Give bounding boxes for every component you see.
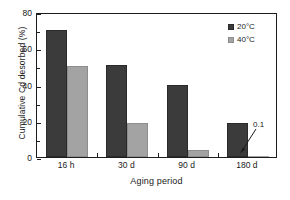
bar-90d-20C [167, 85, 188, 158]
bar-16h-20C [46, 30, 67, 157]
y-tick-mark [37, 87, 41, 88]
x-tick-label: 180 d [222, 160, 272, 170]
legend-item-40C: 40°C [228, 34, 274, 45]
bar-180d-40C [248, 156, 269, 157]
x-tick-label: 30 d [101, 160, 151, 170]
legend-item-20C: 20°C [228, 21, 274, 32]
y-tick-label: 80 [14, 9, 32, 18]
legend-label: 40°C [237, 36, 255, 44]
legend-swatch-icon [228, 37, 234, 43]
x-axis-tick-labels: 16 h30 d90 d180 d [36, 160, 277, 174]
y-tick-mark [37, 14, 41, 15]
chart-figure: Cumulative Cd desorbed (%) 806040200 16 … [0, 0, 290, 200]
y-tick-mark-minor [37, 68, 40, 69]
y-tick-label: 60 [14, 45, 32, 54]
bar-30d-20C [106, 65, 127, 157]
legend-swatch-icon [228, 24, 234, 30]
x-tick-mark [158, 153, 159, 157]
x-tick-mark [97, 153, 98, 157]
x-tick-mark [218, 153, 219, 157]
y-tick-mark-minor [37, 105, 40, 106]
bar-16h-40C [67, 66, 88, 157]
y-tick-mark [37, 123, 41, 124]
y-tick-mark-minor [37, 141, 40, 142]
x-axis-title: Aging period [36, 176, 277, 186]
bar-30d-40C [127, 123, 148, 157]
legend-label: 20°C [237, 23, 255, 31]
x-tick-label: 90 d [162, 160, 212, 170]
y-tick-label: 40 [14, 82, 32, 91]
chart-legend: 20°C40°C [228, 21, 274, 47]
y-tick-mark [37, 50, 41, 51]
y-tick-label: 0 [14, 154, 32, 163]
x-tick-label: 16 h [41, 160, 91, 170]
y-axis-tick-labels: 806040200 [14, 0, 32, 200]
y-tick-label: 20 [14, 118, 32, 127]
bar-90d-40C [188, 150, 209, 157]
y-tick-mark-minor [37, 32, 40, 33]
annotation-arrow-icon [238, 128, 258, 154]
